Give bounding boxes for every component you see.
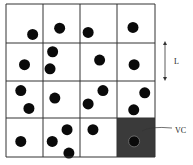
grid-cell	[6, 81, 43, 118]
particle	[94, 55, 105, 66]
particle	[87, 124, 98, 135]
grid-cell	[6, 4, 43, 43]
particle	[83, 27, 94, 38]
particle	[54, 23, 65, 34]
length-arrow	[163, 41, 167, 81]
particle	[129, 59, 140, 70]
particle	[47, 46, 58, 57]
particle-grid-diagram: L VC	[0, 0, 193, 165]
particle	[128, 104, 139, 115]
particle	[49, 93, 60, 104]
particle	[45, 63, 56, 74]
vc-label: VC	[175, 126, 186, 135]
particle	[129, 136, 140, 147]
particle	[62, 124, 73, 135]
particle	[23, 103, 34, 114]
particle	[47, 136, 58, 147]
particle	[97, 85, 108, 96]
particle	[139, 87, 150, 98]
particle	[15, 136, 26, 147]
particle	[127, 22, 138, 33]
particle	[19, 59, 30, 70]
length-label: L	[174, 57, 179, 66]
particle	[83, 98, 94, 109]
grid-cell	[80, 118, 117, 157]
particle	[15, 85, 26, 96]
grid-cell	[43, 81, 80, 118]
particle	[27, 29, 38, 40]
